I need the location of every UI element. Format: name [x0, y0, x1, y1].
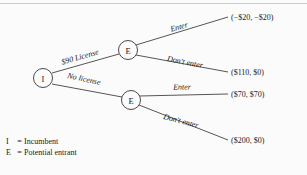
branch-label-dont-enter-top: Don't enter: [165, 54, 204, 70]
branch-line-no-license: [52, 84, 122, 97]
payoff-label-enter-no-license: ($70, $70): [231, 90, 265, 99]
legend-row-entrant: E = Potential entrant: [6, 147, 77, 158]
legend-equals-incumbent: =: [15, 136, 24, 147]
legend-value-incumbent: Incumbent: [24, 136, 58, 147]
node-label-entrant-bottom: E: [128, 96, 133, 106]
legend-key-incumbent: I: [6, 136, 15, 147]
branch-label-enter-bottom: Enter: [172, 82, 192, 91]
payoff-label-enter-license: (−$20, −$20): [231, 13, 274, 22]
legend-equals-entrant: =: [15, 147, 24, 158]
payoff-label-dont-enter-no-license: ($200, $0): [231, 136, 265, 145]
branch-label-no-license: No license: [66, 71, 102, 87]
node-entrant-top[interactable]: E: [119, 41, 138, 60]
node-label-incumbent: I: [42, 74, 45, 84]
branch-label-dont-enter-bottom: Don't enter: [161, 112, 200, 131]
legend: I = Incumbent E = Potential entrant: [6, 136, 77, 158]
branch-label-license: $90 License: [60, 47, 100, 66]
payoff-label-dont-enter-license: ($110, $0): [231, 68, 264, 77]
legend-row-incumbent: I = Incumbent: [6, 136, 77, 147]
node-entrant-bottom[interactable]: E: [122, 91, 141, 110]
node-label-entrant-top: E: [125, 46, 130, 56]
legend-value-entrant: Potential entrant: [24, 147, 77, 158]
branch-line-enter-bottom: [139, 94, 228, 96]
node-incumbent-root[interactable]: I: [34, 69, 53, 88]
legend-key-entrant: E: [6, 147, 15, 158]
game-tree-figure: I E E $90 License No license Enter Don't…: [0, 0, 307, 175]
